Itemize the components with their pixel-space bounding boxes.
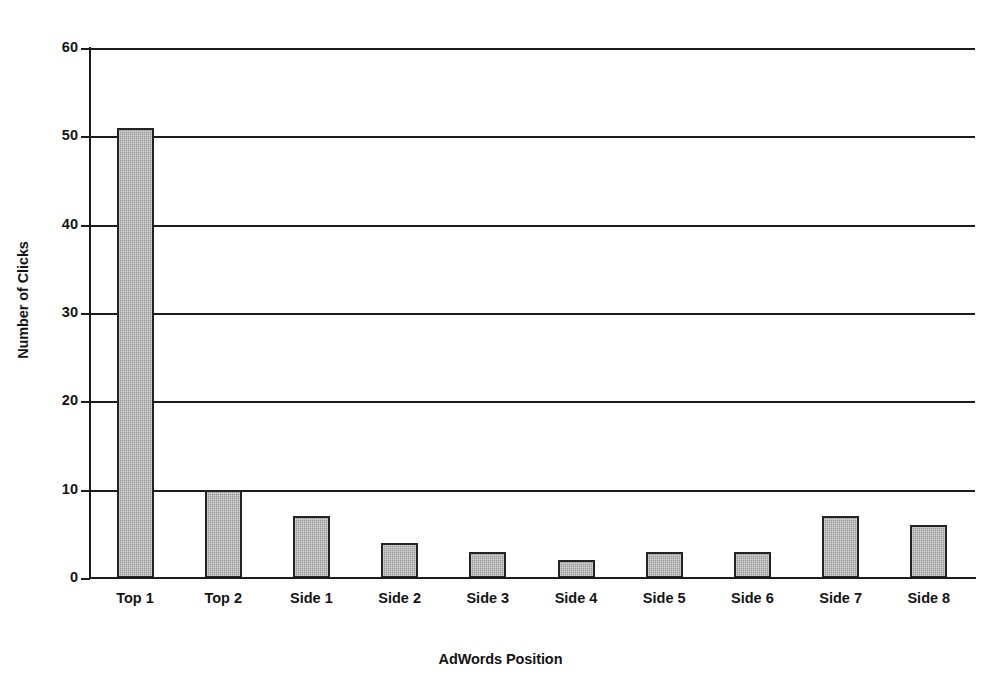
x-tick-label: Side 2 bbox=[355, 590, 445, 606]
x-axis-title: AdWords Position bbox=[0, 651, 1001, 667]
y-tick-label: 20 bbox=[42, 393, 78, 408]
bar bbox=[822, 516, 859, 578]
bar bbox=[205, 490, 242, 578]
x-tick-label: Side 1 bbox=[266, 590, 356, 606]
y-tick-label: 40 bbox=[42, 217, 78, 232]
y-tick-label: 60 bbox=[42, 40, 78, 55]
x-tick-label: Top 2 bbox=[178, 590, 268, 606]
bar bbox=[117, 128, 154, 579]
bar bbox=[910, 525, 947, 578]
gridline bbox=[91, 313, 975, 315]
gridline bbox=[91, 136, 975, 138]
bar bbox=[646, 552, 683, 579]
bar-chart-figure: Number of Clicks 0102030405060 Top 1Top … bbox=[0, 0, 1001, 680]
plot-area bbox=[91, 48, 975, 578]
y-tick-label: 30 bbox=[42, 305, 78, 320]
y-tick-label: 10 bbox=[42, 482, 78, 497]
x-tick-label: Side 6 bbox=[707, 590, 797, 606]
y-axis-title: Number of Clicks bbox=[0, 0, 46, 600]
x-tick-label: Side 5 bbox=[619, 590, 709, 606]
x-tick-label: Side 4 bbox=[531, 590, 621, 606]
gridline bbox=[91, 401, 975, 403]
x-axis-spine bbox=[89, 577, 976, 579]
x-tick-label: Side 7 bbox=[796, 590, 886, 606]
x-tick-label: Side 3 bbox=[443, 590, 533, 606]
bar bbox=[293, 516, 330, 578]
bar bbox=[469, 552, 506, 579]
gridline bbox=[91, 48, 975, 50]
y-axis-title-label: Number of Clicks bbox=[15, 241, 31, 359]
y-tick-label: 0 bbox=[42, 570, 78, 585]
bar bbox=[734, 552, 771, 579]
x-tick-label: Top 1 bbox=[90, 590, 180, 606]
y-tick-label: 50 bbox=[42, 128, 78, 143]
bar bbox=[558, 560, 595, 578]
x-tick-label: Side 8 bbox=[884, 590, 974, 606]
gridline bbox=[91, 225, 975, 227]
bar bbox=[381, 543, 418, 578]
